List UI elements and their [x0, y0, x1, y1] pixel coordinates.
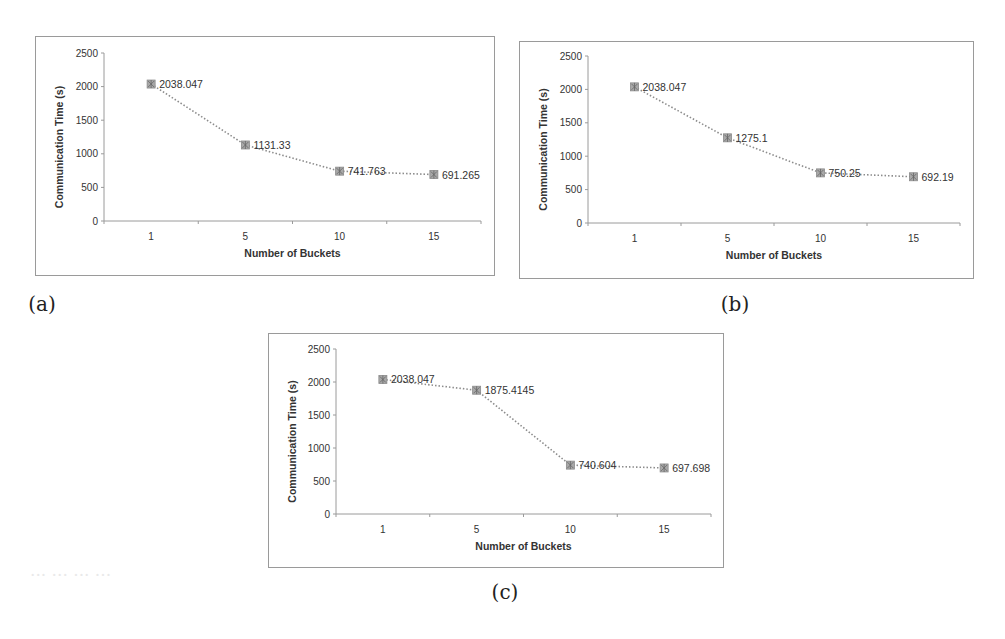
x-axis-title: Number of Buckets	[475, 540, 571, 552]
y-tick-label: 2500	[308, 344, 331, 355]
data-series-line	[151, 84, 434, 175]
y-tick-label: 0	[92, 216, 98, 227]
data-label: 2038.047	[159, 78, 203, 90]
x-tick-label: 5	[725, 233, 731, 244]
x-tick-label: 15	[908, 233, 920, 244]
x-tick-label: 1	[380, 524, 386, 535]
line-chart-c: 05001000150020002500151015Number of Buck…	[269, 334, 723, 567]
y-tick-label: 1000	[560, 151, 583, 162]
caption-a: (a)	[12, 292, 72, 316]
line-chart-a: 05001000150020002500151015Number of Buck…	[36, 37, 494, 275]
y-tick-label: 0	[324, 509, 330, 520]
x-tick-label: 15	[659, 524, 671, 535]
data-label: 2038.047	[643, 81, 687, 93]
background-bleed-text: ... ... ... ...	[30, 560, 111, 580]
x-tick-label: 5	[243, 231, 249, 242]
y-axis-title: Communication Time (s)	[286, 380, 298, 502]
x-tick-label: 10	[565, 524, 577, 535]
chart-panel-c: 05001000150020002500151015Number of Buck…	[268, 333, 724, 568]
x-tick-label: 5	[474, 524, 480, 535]
y-tick-label: 1500	[308, 410, 331, 421]
data-label: 2038.047	[391, 373, 435, 385]
caption-c: (c)	[475, 580, 535, 604]
y-tick-label: 500	[313, 476, 330, 487]
chart-panel-b: 05001000150020002500151015Number of Buck…	[519, 41, 974, 279]
y-tick-label: 2000	[76, 81, 99, 92]
y-tick-label: 0	[576, 218, 582, 229]
data-label: 692.19	[922, 171, 954, 183]
x-tick-label: 10	[334, 231, 346, 242]
data-label: 1131.33	[253, 139, 290, 151]
data-label: 1275.1	[736, 132, 768, 144]
y-tick-label: 1000	[308, 443, 331, 454]
x-axis-title: Number of Buckets	[726, 249, 822, 261]
y-axis-title: Communication Time (s)	[537, 88, 549, 210]
y-tick-label: 500	[81, 182, 98, 193]
data-label: 740.604	[578, 459, 616, 471]
data-label: 741.763	[348, 165, 386, 177]
y-tick-label: 2000	[308, 377, 331, 388]
data-label: 697.698	[672, 462, 710, 474]
y-tick-label: 500	[565, 184, 582, 195]
caption-b: (b)	[705, 292, 765, 316]
y-tick-label: 1500	[560, 117, 583, 128]
x-axis-title: Number of Buckets	[244, 247, 340, 259]
data-label: 691.265	[442, 169, 480, 181]
y-tick-label: 1000	[76, 148, 99, 159]
x-tick-label: 10	[815, 233, 827, 244]
y-axis-title: Communication Time (s)	[53, 86, 65, 208]
y-tick-label: 1500	[76, 115, 99, 126]
data-label: 750.25	[829, 167, 861, 179]
chart-panel-a: 05001000150020002500151015Number of Buck…	[35, 36, 495, 276]
x-tick-label: 1	[148, 231, 154, 242]
x-tick-label: 15	[428, 231, 440, 242]
data-series-line	[635, 87, 914, 177]
data-label: 1875.4145	[485, 384, 535, 396]
line-chart-b: 05001000150020002500151015Number of Buck…	[520, 42, 973, 278]
y-tick-label: 2500	[76, 48, 99, 59]
y-tick-label: 2000	[560, 84, 583, 95]
y-tick-label: 2500	[560, 51, 583, 62]
x-tick-label: 1	[632, 233, 638, 244]
